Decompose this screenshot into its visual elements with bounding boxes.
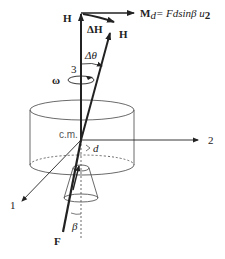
label-beta: β: [71, 220, 78, 232]
label-force: F: [54, 235, 61, 247]
precession-diagram: H ΔH H Md= Fdsinβ u2 Δθ 3 ω c.m. 2 d 1 F…: [0, 0, 225, 259]
label-omega: ω: [52, 74, 60, 86]
label-axis-2: 2: [208, 134, 214, 146]
moment-formula: Md= Fdsinβ u2: [140, 7, 211, 21]
d-dimension-marker: [86, 145, 90, 151]
label-axis-1: 1: [10, 199, 16, 211]
label-H-final: H: [119, 28, 128, 40]
delta-H-vector: [83, 14, 114, 22]
label-axis-3: 3: [71, 63, 77, 75]
label-cm: c.m.: [59, 129, 78, 140]
label-delta-theta: Δθ: [84, 49, 97, 61]
force-line: [63, 140, 81, 232]
label-d: d: [93, 142, 99, 154]
label-H-initial: H: [63, 12, 72, 24]
delta-theta-arc: [81, 63, 102, 66]
label-delta-H: ΔH: [87, 23, 103, 35]
beta-arc: [71, 213, 81, 214]
